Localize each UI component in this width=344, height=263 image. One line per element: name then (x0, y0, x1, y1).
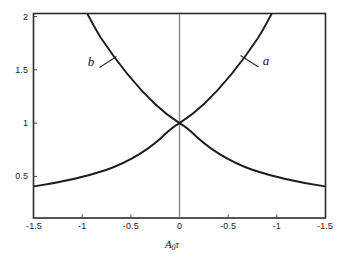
x-tick-label-6: -1.5 (317, 221, 333, 231)
x-tick-label-3: 0 (177, 221, 182, 231)
chart-figure: 2 1.5 1 0.5 -1.5 -1 -0.5 0 -0.5 -1 -1.5 … (0, 0, 344, 263)
plot-canvas (0, 0, 344, 263)
x-tick-label-0: -1.5 (26, 221, 42, 231)
x-tick-label-2: -0.5 (123, 221, 139, 231)
y-tick-label-0_5: 0.5 (5, 171, 28, 181)
curve-label-b: b (88, 54, 95, 70)
y-tick-label-2: 2 (8, 12, 28, 22)
y-tick-label-1: 1 (8, 118, 28, 128)
x-tick-label-4: -0.5 (220, 221, 236, 231)
x-axis-title: A0τ (165, 238, 179, 252)
x-tick-label-1: -1 (78, 221, 86, 231)
curve-label-a: a (263, 53, 270, 69)
x-tick-label-5: -1 (273, 221, 281, 231)
y-tick-label-1_5: 1.5 (5, 65, 28, 75)
